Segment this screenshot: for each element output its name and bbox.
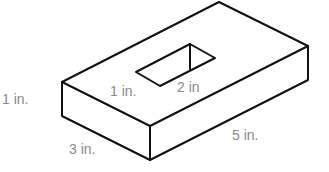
length-label: 5 in. (232, 128, 258, 142)
hole-opening (136, 44, 215, 86)
right-face (150, 46, 308, 160)
top-face (62, 2, 308, 126)
height-label: 1 in. (2, 92, 28, 106)
width-label: 3 in. (69, 142, 95, 156)
block-diagram (0, 0, 329, 172)
hole-length-label: 2 in (177, 80, 200, 94)
hole-width-label: 1 in. (110, 84, 136, 98)
